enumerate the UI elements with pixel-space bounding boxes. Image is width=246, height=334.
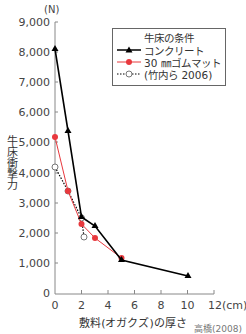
legend-label: (竹内ら 2006): [144, 67, 212, 82]
x-tick-label: 8: [158, 300, 165, 311]
x-tick-label: 6: [131, 300, 138, 311]
series-takeuchi-2006: [52, 164, 87, 240]
source-credit: 高橋(2008): [194, 322, 242, 334]
x-tick-label: 12(cm): [208, 300, 246, 311]
x-tick-label: 0: [52, 300, 59, 311]
x-tick-label: 4: [105, 300, 112, 311]
x-tick-label: 2: [78, 300, 85, 311]
series-rubber-mat: [52, 134, 125, 261]
x-ticks: [82, 290, 215, 294]
legend-item-takeuchi: (竹内ら 2006): [116, 68, 225, 80]
circle-marker-icon: [116, 57, 142, 67]
legend: 牛床の条件 コンクリート 30 ㎜ゴムマット (竹内ら 2006): [112, 28, 226, 86]
x-tick-label: 10: [181, 300, 195, 311]
open-circle-marker-icon: [116, 69, 142, 79]
triangle-marker-icon: [116, 45, 142, 55]
